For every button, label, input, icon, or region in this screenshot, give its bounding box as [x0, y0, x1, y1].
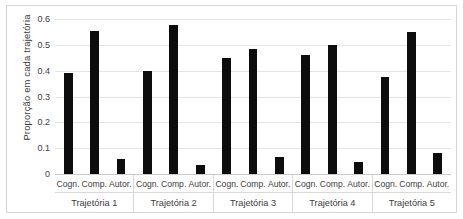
- category-label: Cogn.: [373, 175, 399, 192]
- category-label: Cogn.: [293, 175, 319, 192]
- y-axis-title: Proporção em cada trajetória: [21, 3, 32, 153]
- bar: [275, 157, 284, 174]
- bar: [407, 32, 416, 174]
- group-label: Trajetória 2: [134, 193, 213, 212]
- category-label: Autor.: [187, 175, 213, 192]
- bar: [354, 162, 363, 174]
- bar: [143, 71, 152, 174]
- bar: [222, 58, 231, 174]
- category-group: Cogn.Comp.Autor.: [134, 175, 213, 192]
- category-label: Comp.: [81, 175, 107, 192]
- bar: [169, 25, 178, 174]
- group-label: Trajetória 3: [214, 193, 293, 212]
- group-axis: Trajetória 1Trajetória 2Trajetória 3Traj…: [55, 192, 451, 212]
- category-label: Comp.: [399, 175, 425, 192]
- bar: [90, 31, 99, 174]
- category-label: Cogn.: [55, 175, 81, 192]
- y-tick-label: 0.6: [37, 14, 50, 24]
- bar: [301, 55, 310, 174]
- category-label: Cogn.: [214, 175, 240, 192]
- category-label: Autor.: [425, 175, 451, 192]
- group-label: Trajetória 5: [373, 193, 451, 212]
- category-group: Cogn.Comp.Autor.: [214, 175, 293, 192]
- category-label: Cogn.: [134, 175, 160, 192]
- category-group: Cogn.Comp.Autor.: [373, 175, 451, 192]
- bar: [328, 45, 337, 174]
- bar-chart: Proporção em cada trajetória 0.60.50.40.…: [0, 0, 463, 219]
- bar: [117, 159, 126, 175]
- category-label: Autor.: [346, 175, 372, 192]
- category-group: Cogn.Comp.Autor.: [55, 175, 134, 192]
- plot-area: 0.60.50.40.30.20.10: [55, 19, 451, 174]
- category-axis: Cogn.Comp.Autor.Cogn.Comp.Autor.Cogn.Com…: [55, 174, 451, 192]
- category-label: Comp.: [240, 175, 266, 192]
- category-group: Cogn.Comp.Autor.: [293, 175, 372, 192]
- y-tick-label: 0.4: [37, 66, 50, 76]
- bar: [381, 77, 390, 174]
- y-tick-label: 0.2: [37, 117, 50, 127]
- group-label: Trajetória 1: [55, 193, 134, 212]
- y-tick-label: 0: [45, 169, 50, 179]
- bar: [433, 153, 442, 174]
- category-label: Autor.: [107, 175, 133, 192]
- bars-layer: [55, 19, 451, 174]
- group-label: Trajetória 4: [293, 193, 372, 212]
- category-label: Comp.: [161, 175, 187, 192]
- y-tick-label: 0.1: [37, 143, 50, 153]
- chart-frame: Proporção em cada trajetória 0.60.50.40.…: [6, 5, 457, 213]
- bar: [64, 73, 73, 174]
- bar: [249, 49, 258, 174]
- category-label: Comp.: [319, 175, 345, 192]
- y-tick-label: 0.3: [37, 92, 50, 102]
- y-tick-label: 0.5: [37, 40, 50, 50]
- bar: [196, 165, 205, 174]
- category-label: Autor.: [266, 175, 292, 192]
